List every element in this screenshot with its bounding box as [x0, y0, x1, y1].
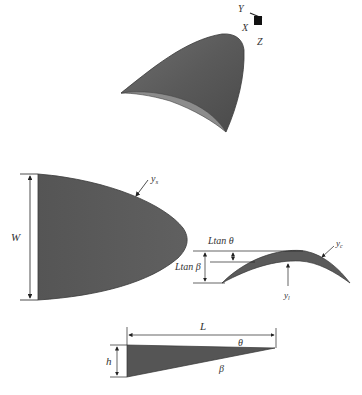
l-label: L: [199, 320, 206, 332]
axis-label-y: Y: [238, 3, 245, 14]
triad-origin-block: [254, 16, 262, 25]
plan-shape: [38, 174, 187, 300]
yl-label: yl: [283, 290, 290, 301]
axis-label-z: Z: [257, 36, 263, 47]
ltan-beta-label: Ltan β: [174, 261, 201, 272]
wedge-shape: [127, 345, 275, 377]
ltan-theta-label: Ltan θ: [207, 235, 234, 246]
plan-view: W ys: [11, 173, 187, 300]
h-label: h: [106, 355, 112, 367]
theta-label: θ: [238, 337, 243, 348]
ys-leader: [136, 180, 148, 196]
ys-label: ys: [150, 173, 158, 186]
diagram-canvas: Y X Z W ys Ltan θ Ltan β yc: [0, 0, 362, 395]
w-label: W: [11, 231, 21, 243]
airfoil-section: [222, 250, 350, 283]
surface-upper: [121, 34, 244, 132]
cross-section-view: Ltan θ Ltan β yc yl: [174, 235, 350, 301]
isometric-surface: [121, 34, 244, 132]
yc-label: yc: [335, 238, 343, 249]
yc-leader: [322, 246, 334, 257]
side-view: L h θ β: [106, 320, 276, 377]
axes-triad: Y X Z: [238, 3, 263, 47]
axis-label-x: X: [241, 22, 249, 33]
beta-label: β: [218, 363, 224, 374]
